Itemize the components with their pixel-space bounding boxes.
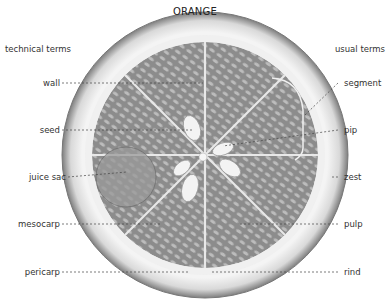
usual-terms-header: usual terms xyxy=(335,44,385,54)
label-wall: wall xyxy=(43,78,60,88)
label-pulp: pulp xyxy=(344,219,363,229)
label-segment: segment xyxy=(344,78,381,88)
label-zest: zest xyxy=(344,172,361,182)
label-juice-sac: juice sac xyxy=(29,172,66,182)
label-mesocarp: mesocarp xyxy=(18,219,60,229)
label-rind: rind xyxy=(344,267,361,277)
technical-terms-header: technical terms xyxy=(5,44,71,54)
label-pericarp: pericarp xyxy=(25,267,60,277)
diagram-title: ORANGE xyxy=(0,6,390,17)
label-pip: pip xyxy=(344,125,357,135)
juice-sac xyxy=(96,147,156,207)
label-seed: seed xyxy=(40,125,60,135)
